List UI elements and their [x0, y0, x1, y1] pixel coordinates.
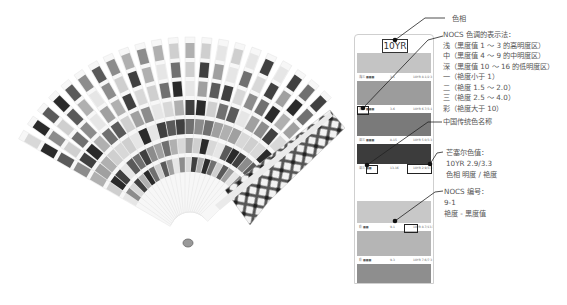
swatch-label-mid: 3-1 [390, 75, 395, 79]
hue-annotation: 色相 [452, 14, 466, 24]
color-band [357, 264, 431, 284]
color-fan-illustration [0, 0, 345, 305]
color-band [357, 113, 431, 136]
swatch-label-mid: 9-1 [390, 225, 395, 229]
swatch-label-row: 彩 ■■■9-310YR 7.6/7.3 [357, 256, 431, 264]
color-band [357, 81, 431, 105]
munsell-description: 色相 明度 / 艳度 [446, 170, 497, 180]
swatch-label-right: 10YR 6.7/3.1 [413, 107, 432, 111]
hue-label-box: 10YR [382, 39, 408, 53]
highlight-box [404, 224, 418, 233]
munsell-title: 芒塞尔色值： [446, 148, 488, 158]
nocs-code-title: NOCS 编号： [444, 187, 488, 197]
pivot-screw-icon [183, 239, 193, 247]
swatch-label-left: 浅三 ■■■ [359, 75, 374, 79]
color-band [357, 144, 431, 164]
nocs-notation-line: 彩（艳度大于 10） [443, 104, 503, 114]
nocs-notation-line: 浅（黑度值 1 ～ 3 的高明度区） [443, 41, 545, 51]
swatch-label-right: 10YR 8.1/2.3 [413, 75, 432, 79]
swatch-label-left: 深三 ■■■ [359, 138, 374, 142]
swatch-label-left: 彩 ■■ [359, 225, 369, 229]
swatch-label-row: 深三 ■■■8-1510YR 5.0/3.3 [357, 136, 431, 144]
swatch-label-right: 10YR 5.0/3.3 [413, 138, 432, 142]
nocs-notation-line: 一（艳度小于 1） [443, 72, 499, 82]
swatch-label-mid: 13-16 [390, 166, 399, 170]
nocs-notation-line: 二（艳度 1.5 ～ 2.0） [443, 83, 515, 93]
color-band [357, 201, 431, 223]
swatch-label-row: 浅三 ■■■3-110YR 8.1/2.3 [357, 73, 431, 81]
swatch-label-row: 彩 ■■9-110YR 8.7/13.3 [357, 223, 431, 231]
swatch-label-right: 10YR 7.6/7.3 [413, 258, 432, 262]
highlight-box [357, 106, 369, 115]
nocs-notation-line: 中（黑度值 4 ～ 9 的中明度区） [443, 51, 545, 61]
nocs-notation-title: NOCS 色调的表示法： [443, 30, 515, 40]
nocs-notation-line: 三（艳度 2.5 ～ 4.0） [443, 93, 515, 103]
swatch-label-left: 彩 ■■■ [359, 258, 371, 262]
nocs-notation-line: 深（黑度值 10 ～ 16 的低明度区） [443, 62, 554, 72]
nocs-code-value: 9-1 [444, 198, 456, 208]
munsell-value: 10YR 2.9/3.3 [446, 159, 492, 169]
color-band [357, 53, 431, 73]
highlight-box [407, 164, 432, 174]
swatch-card: 10YR 浅三 ■■■3-110YR 8.1/2.3浅三 ■■■3-610YR … [354, 34, 434, 284]
color-band [357, 231, 431, 256]
swatch-label-mid: 3-6 [390, 107, 395, 111]
nocs-code-description: 艳度 - 黑度值 [444, 209, 486, 219]
color-band [357, 172, 431, 201]
traditional-name-annotation: 中国传统色名称 [443, 117, 492, 127]
swatch-label-mid: 8-15 [390, 138, 397, 142]
swatch-label-mid: 9-3 [390, 258, 395, 262]
highlight-box [366, 165, 378, 174]
